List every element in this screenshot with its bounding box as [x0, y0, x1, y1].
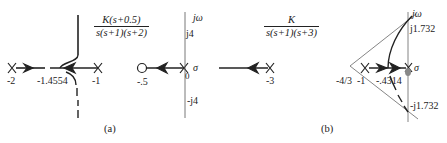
transfer-function-a: K(s+0.5) s(s+1)(s+2)	[94, 14, 149, 39]
caption-b: (b)	[321, 123, 333, 134]
sigma-label-a: σ	[193, 63, 198, 73]
zero-marker	[138, 64, 147, 73]
zero-label: -.5	[137, 77, 148, 87]
breakaway-label-b: -.4314	[376, 76, 402, 86]
transfer-function-b: K s(s+1)(s+3)	[264, 14, 319, 39]
jw-label-b: jω	[412, 9, 422, 19]
caption-a: (a)	[104, 123, 116, 134]
centroid-label: -4/3	[336, 76, 352, 86]
tf-b-denominator: s(s+1)(s+3)	[264, 27, 319, 39]
pole-label-minus1-b: -1	[357, 76, 365, 86]
tf-a-numerator: K(s+0.5)	[94, 14, 149, 27]
tf-a-denominator: s(s+1)(s+2)	[94, 27, 149, 39]
pole-marker-minus1-b	[361, 63, 369, 73]
root-locus-diagrams	[0, 0, 447, 143]
pole-label-minus3: -3	[266, 76, 274, 86]
pole-label-minus1: -1	[92, 76, 100, 86]
pole-label-minus2: -2	[7, 76, 15, 86]
pole-marker-minus2	[8, 63, 16, 73]
minus-j4-label: -j4	[187, 96, 198, 106]
sigma-label-b: σ	[414, 63, 419, 73]
j1732-label: j1.732	[410, 24, 435, 34]
breakaway-label-a: -1.4554	[37, 76, 68, 86]
origin-label-a: 0	[185, 71, 190, 81]
tf-b-numerator: K	[264, 14, 319, 27]
minus-j1732-label: -j1.732	[410, 101, 439, 111]
j4-label: j4	[186, 29, 194, 39]
jw-label-a: jω	[193, 13, 203, 23]
